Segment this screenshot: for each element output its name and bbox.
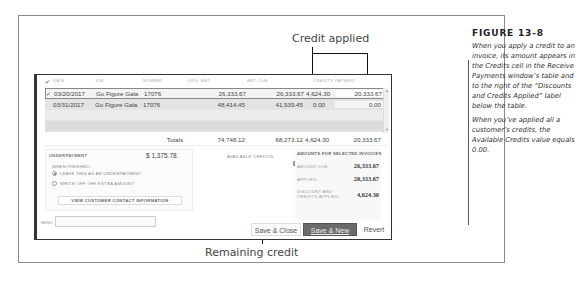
radio-write-off[interactable]: WRITE OFF THE EXTRA AMOUNT bbox=[52, 181, 134, 186]
save-close-button[interactable]: Save & Close bbox=[251, 223, 301, 236]
total-amt-due: 68,273.12 bbox=[247, 136, 305, 143]
memo-input[interactable] bbox=[55, 216, 156, 227]
radio-label: LEAVE THIS AS AN UNDERPAYMENT bbox=[60, 171, 141, 176]
cell-date: 03/20/2017 bbox=[54, 90, 96, 97]
discount-credits-value: 4,624.30 bbox=[357, 191, 379, 198]
amounts-title: AMOUNTS FOR SELECTED INVOICES bbox=[297, 151, 382, 156]
underpayment-panel: UNDERPAYMENT $ 1,375.78. WHEN FINISHED: … bbox=[45, 149, 193, 211]
applied-value: 20,333.67 bbox=[354, 175, 379, 182]
figure-title: FIGURE 13-8 bbox=[472, 28, 582, 38]
totals-row: Totals 74,748.12 68,273.12 4,624.30 20,3… bbox=[45, 134, 388, 146]
save-new-button[interactable]: Save & New bbox=[303, 223, 357, 236]
cell-number: 17076 bbox=[143, 101, 187, 108]
revert-button[interactable]: Revert bbox=[359, 223, 389, 236]
underpayment-title: UNDERPAYMENT bbox=[49, 153, 87, 158]
table-row[interactable]: ✓ 03/20/2017 Go Figure Gala 17076 26,333… bbox=[45, 88, 388, 99]
table-scrollbar[interactable]: ▲ ▼ bbox=[383, 88, 389, 133]
caption-divider bbox=[468, 60, 469, 225]
caption-paragraph: When you’ve applied all a customer’s cre… bbox=[472, 115, 582, 155]
callout-line-top-horizontal bbox=[312, 53, 368, 54]
total-orig-amt: 74,748.12 bbox=[187, 136, 247, 143]
caption-paragraph: When you apply a credit to an invoice, i… bbox=[472, 41, 582, 111]
header-payment[interactable]: PAYMENT bbox=[335, 78, 385, 88]
header-number[interactable]: NUMBER bbox=[143, 78, 187, 88]
cell-credits[interactable]: 0.00 bbox=[305, 101, 335, 108]
cell-job: Go Figure Gala bbox=[96, 90, 144, 97]
radio-label: WRITE OFF THE EXTRA AMOUNT bbox=[60, 181, 134, 186]
amounts-selected-invoices-panel: AMOUNTS FOR SELECTED INVOICES AMOUNT DUE… bbox=[295, 149, 381, 221]
amount-due-label: AMOUNT DUE bbox=[297, 164, 328, 169]
table-row[interactable]: 03/31/2017 Go Figure Gala 17076 48,414.4… bbox=[45, 99, 388, 110]
header-job[interactable]: JOB bbox=[95, 78, 143, 88]
cell-orig-amt: 26,333.67 bbox=[188, 90, 248, 97]
memo-label: MEMO bbox=[41, 220, 53, 225]
header-orig-amt[interactable]: ORIG. AMT. bbox=[187, 78, 247, 88]
amount-due-value: 26,333.67 bbox=[354, 162, 379, 169]
scroll-down-arrow-icon[interactable]: ▼ bbox=[384, 127, 390, 133]
header-date[interactable]: DATE bbox=[53, 78, 95, 88]
radio-selected-icon[interactable] bbox=[52, 171, 57, 176]
total-credits: 4,624.30 bbox=[305, 136, 335, 143]
header-check[interactable]: ✓ bbox=[45, 78, 53, 88]
applied-label: APPLIED bbox=[297, 177, 317, 182]
table-header: ✓ DATE JOB NUMBER ORIG. AMT. AMT. DUE CR… bbox=[45, 78, 388, 88]
underpayment-amount: $ 1,375.78. bbox=[146, 152, 179, 159]
header-amt-due[interactable]: AMT. DUE bbox=[247, 78, 305, 88]
view-customer-contact-button[interactable]: VIEW CUSTOMER CONTACT INFORMATION bbox=[58, 196, 182, 205]
cell-amt-due: 26,333.67 bbox=[248, 90, 306, 97]
scroll-up-arrow-icon[interactable]: ▲ bbox=[384, 88, 390, 94]
figure-caption: FIGURE 13-8 When you apply a credit to a… bbox=[472, 28, 582, 155]
cell-number: 17076 bbox=[144, 90, 188, 97]
cell-job: Go Figure Gala bbox=[95, 101, 143, 108]
cell-orig-amt: 48,414.45 bbox=[187, 101, 247, 108]
table-row-empty bbox=[45, 110, 388, 121]
receive-payments-window: ✓ DATE JOB NUMBER ORIG. AMT. AMT. DUE CR… bbox=[34, 74, 392, 240]
invoice-table: ✓ DATE JOB NUMBER ORIG. AMT. AMT. DUE CR… bbox=[45, 78, 388, 146]
cell-payment[interactable]: 20,333.67 bbox=[336, 90, 386, 97]
available-credits-label: AVAILABLE CREDITS bbox=[227, 154, 274, 159]
header-credits[interactable]: CREDITS bbox=[305, 78, 335, 88]
radio-unselected-icon[interactable] bbox=[52, 181, 57, 186]
row-checkmark[interactable]: ✓ bbox=[46, 90, 54, 97]
callout-remaining-credit: Remaining credit bbox=[205, 246, 298, 259]
cell-date: 03/31/2017 bbox=[53, 101, 95, 108]
total-payment: 20,333.67 bbox=[335, 136, 385, 143]
radio-leave-underpayment[interactable]: LEAVE THIS AS AN UNDERPAYMENT bbox=[52, 171, 141, 176]
cell-amt-due: 41,939.45 bbox=[247, 101, 305, 108]
cell-payment[interactable]: 0.00 bbox=[335, 101, 385, 108]
callout-credit-applied: Credit applied bbox=[292, 32, 369, 45]
discount-credits-label: DISCOUNT AND CREDITS APPLIED bbox=[297, 189, 347, 199]
totals-label: Totals bbox=[45, 136, 187, 143]
cell-credits[interactable]: 4,624.30 bbox=[306, 90, 336, 97]
when-finished-label: WHEN FINISHED: bbox=[52, 164, 91, 169]
table-row-empty bbox=[45, 121, 388, 132]
